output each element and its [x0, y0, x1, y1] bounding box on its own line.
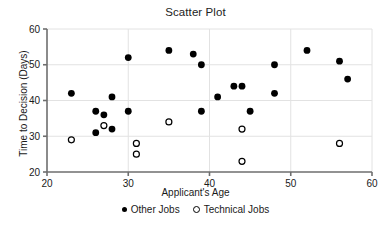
- legend-label-technical-jobs: Technical Jobs: [204, 204, 270, 215]
- open-circle-icon: [193, 206, 200, 213]
- plot-area: 20304050602030405060: [0, 0, 391, 233]
- data-point-other-jobs: [92, 108, 99, 115]
- y-tick-label: 50: [29, 59, 41, 70]
- data-point-other-jobs: [125, 108, 132, 115]
- legend-item-technical-jobs: Technical Jobs: [193, 204, 270, 215]
- data-point-other-jobs: [344, 76, 351, 83]
- data-point-other-jobs: [336, 58, 343, 65]
- axis-tick-labels: 20304050602030405060: [29, 24, 378, 190]
- data-point-other-jobs: [239, 83, 246, 90]
- data-point-other-jobs: [247, 108, 254, 115]
- data-point-other-jobs: [198, 108, 205, 115]
- y-tick-label: 30: [29, 131, 41, 142]
- data-point-technical-jobs: [68, 137, 74, 143]
- data-point-other-jobs: [109, 126, 116, 133]
- data-point-other-jobs: [214, 94, 221, 101]
- data-point-technical-jobs: [101, 123, 107, 129]
- data-point-other-jobs: [100, 111, 107, 118]
- filled-circle-icon: [122, 207, 127, 212]
- data-point-other-jobs: [198, 61, 205, 68]
- data-point-technical-jobs: [239, 126, 245, 132]
- data-point-other-jobs: [271, 90, 278, 97]
- data-point-technical-jobs: [133, 140, 139, 146]
- gridlines: [47, 29, 372, 172]
- data-point-other-jobs: [230, 83, 237, 90]
- data-point-technical-jobs: [133, 151, 139, 157]
- data-point-technical-jobs: [239, 158, 245, 164]
- y-tick-label: 60: [29, 24, 41, 35]
- legend-label-other-jobs: Other Jobs: [131, 204, 180, 215]
- data-point-other-jobs: [92, 129, 99, 136]
- y-tick-label: 40: [29, 95, 41, 106]
- data-point-other-jobs: [109, 94, 116, 101]
- data-point-other-jobs: [125, 54, 132, 61]
- data-point-other-jobs: [165, 47, 172, 54]
- axis-ticks: [43, 29, 372, 176]
- data-point-other-jobs: [304, 47, 311, 54]
- data-point-other-jobs: [68, 90, 75, 97]
- x-axis-label: Applicant's Age: [0, 187, 391, 198]
- data-point-technical-jobs: [337, 140, 343, 146]
- y-tick-label: 20: [29, 167, 41, 178]
- data-point-other-jobs: [271, 61, 278, 68]
- scatter-plot-figure: Scatter Plot Time to Decision (Days) 203…: [0, 0, 391, 233]
- data-point-other-jobs: [190, 51, 197, 58]
- data-point-technical-jobs: [166, 119, 172, 125]
- chart-legend: Other Jobs Technical Jobs: [0, 204, 391, 215]
- series-technical-jobs-points: [68, 119, 342, 164]
- legend-item-other-jobs: Other Jobs: [122, 204, 180, 215]
